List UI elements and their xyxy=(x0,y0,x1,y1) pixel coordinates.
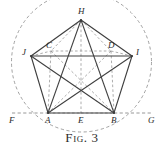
construction-h-c xyxy=(51,20,81,51)
construction-d-a xyxy=(48,51,111,113)
point-label-j: J xyxy=(22,48,26,57)
pentagram-a-i xyxy=(48,56,132,113)
construction-c-a-vertical xyxy=(48,51,51,113)
vertex-dot-a xyxy=(47,112,49,114)
point-label-a: A xyxy=(45,116,51,125)
vertex-dot-i xyxy=(131,55,133,57)
point-label-g: G xyxy=(148,116,155,125)
point-label-h: H xyxy=(78,7,85,16)
vertex-dot-b xyxy=(113,112,115,114)
point-label-c: C xyxy=(46,41,52,50)
construction-h-d xyxy=(81,20,111,51)
vertex-dot-j xyxy=(30,55,32,57)
figure-container: A B C D E F G H I J Fig. 3 xyxy=(0,0,164,157)
pentagram-group xyxy=(31,20,132,113)
construction-d-b-vertical xyxy=(111,51,114,113)
pentagram-a-h xyxy=(48,20,81,113)
vertex-dot-h xyxy=(80,19,82,21)
point-label-f: F xyxy=(9,116,15,125)
pentagram-b-h xyxy=(81,20,114,113)
construction-c-b xyxy=(51,51,114,113)
figure-caption: Fig. 3 xyxy=(0,130,164,146)
point-label-b: B xyxy=(111,116,117,125)
point-label-e: E xyxy=(78,116,84,125)
point-label-d: D xyxy=(108,41,115,50)
point-label-i: I xyxy=(136,48,139,57)
pentagram-b-j xyxy=(31,56,114,113)
